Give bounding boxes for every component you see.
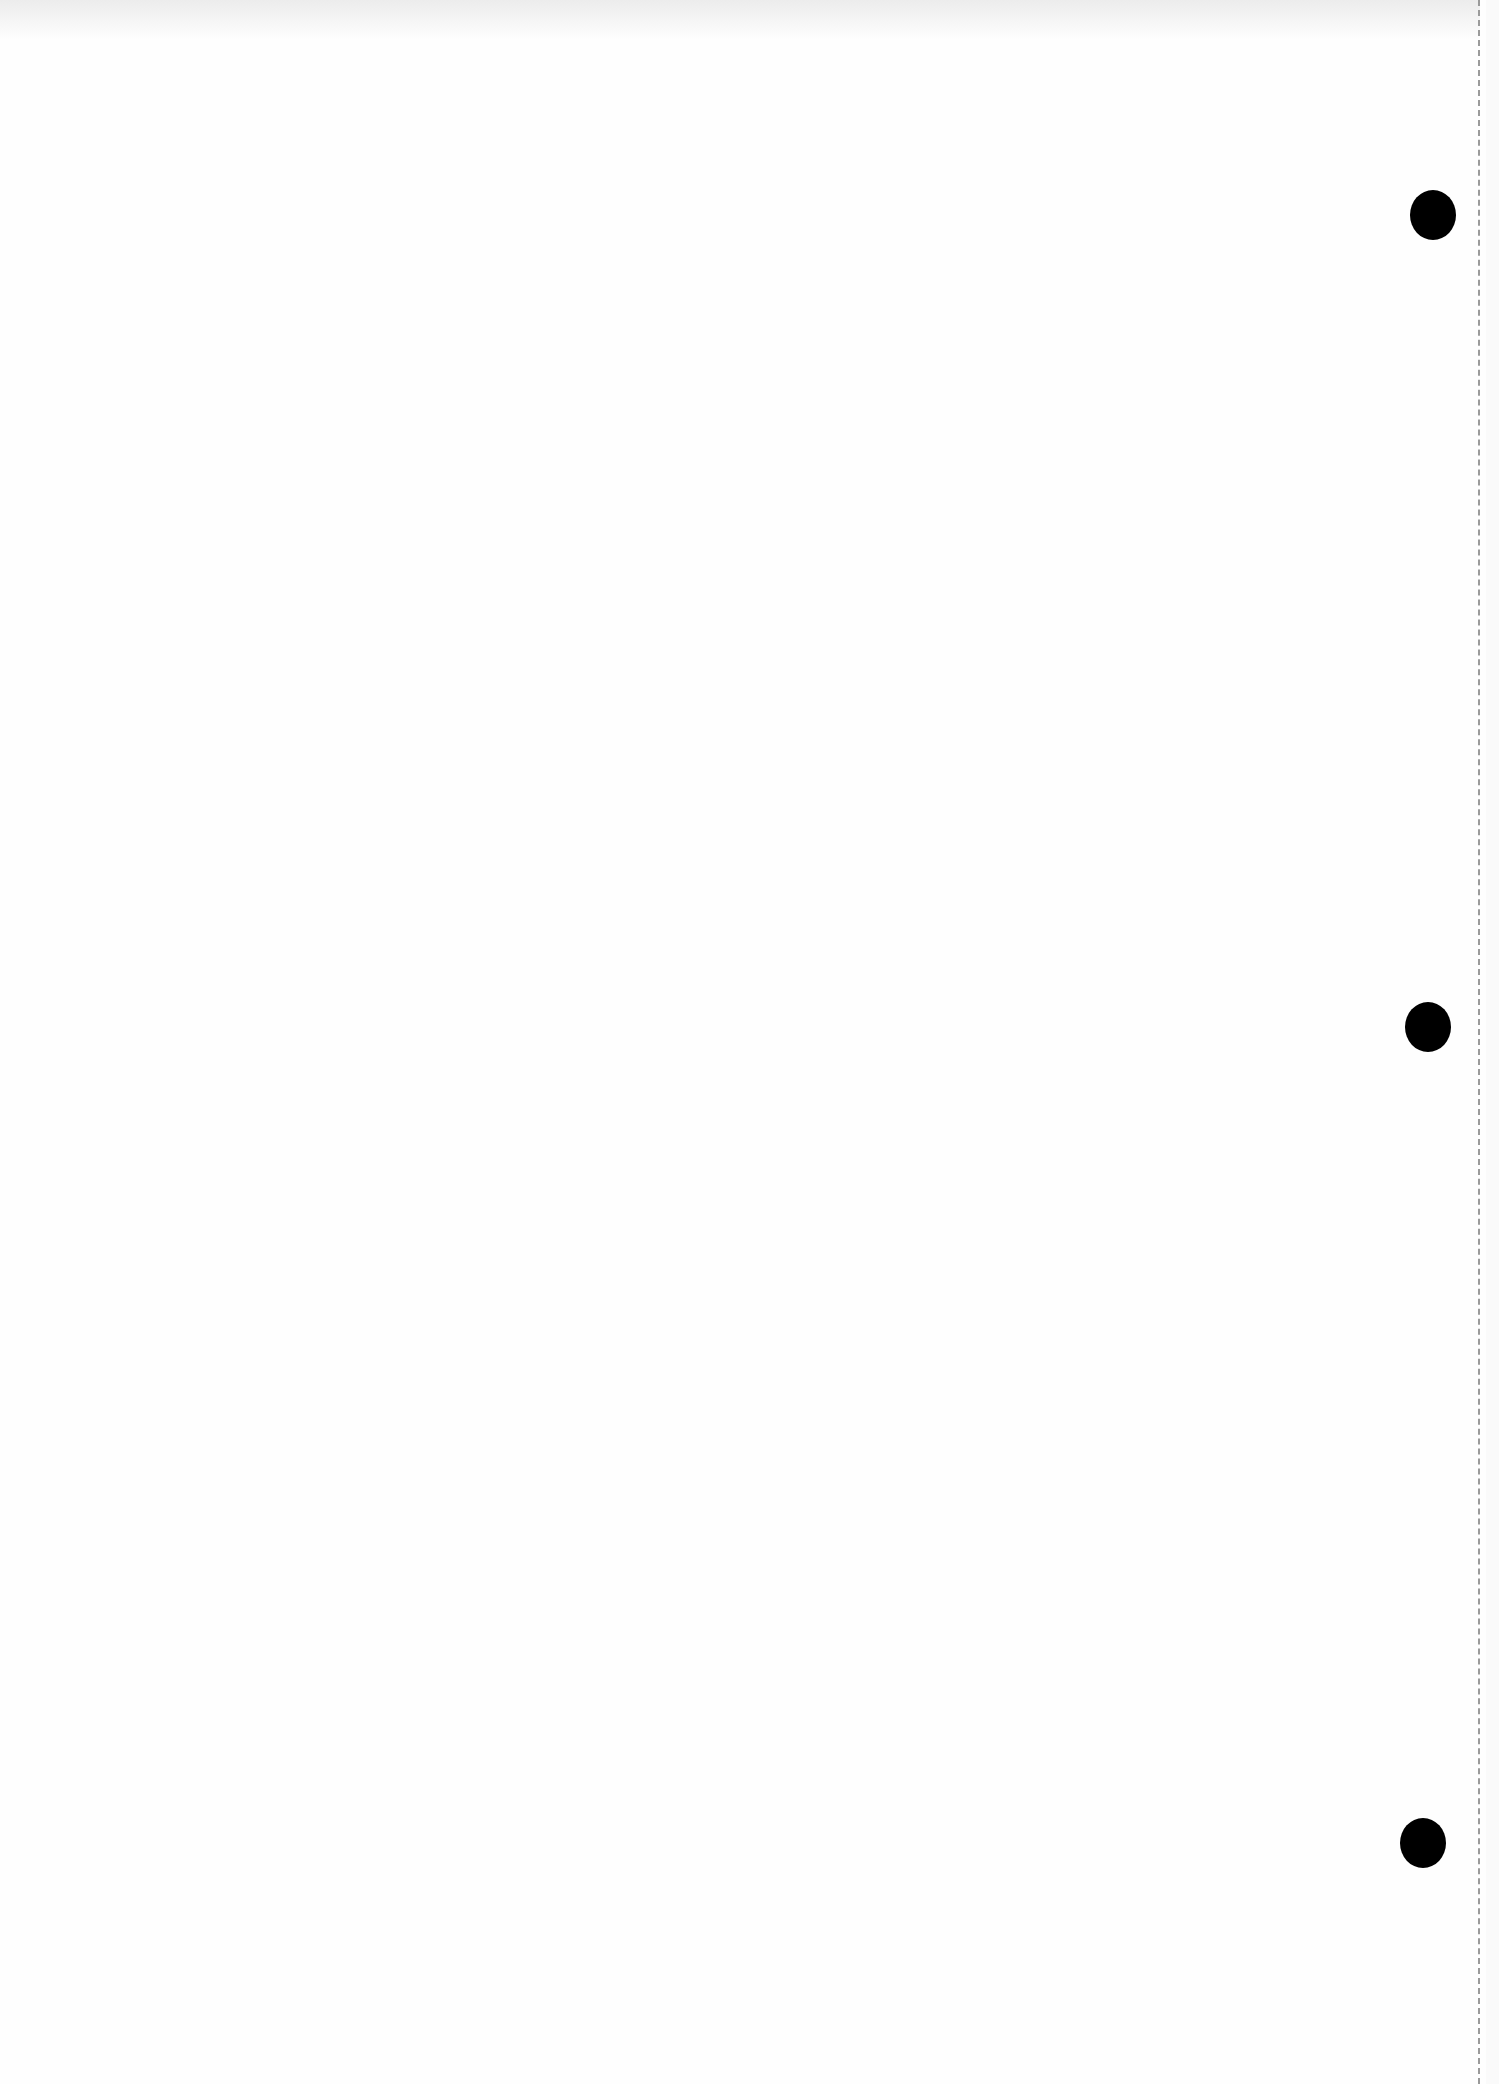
- punch-hole-top: [1410, 190, 1456, 240]
- perforated-edge: [1478, 0, 1480, 2084]
- punch-hole-bottom: [1400, 1818, 1446, 1868]
- scan-top-shading: [0, 0, 1480, 40]
- paper-edge-margin: [1486, 0, 1499, 2084]
- punch-hole-middle: [1405, 1002, 1451, 1052]
